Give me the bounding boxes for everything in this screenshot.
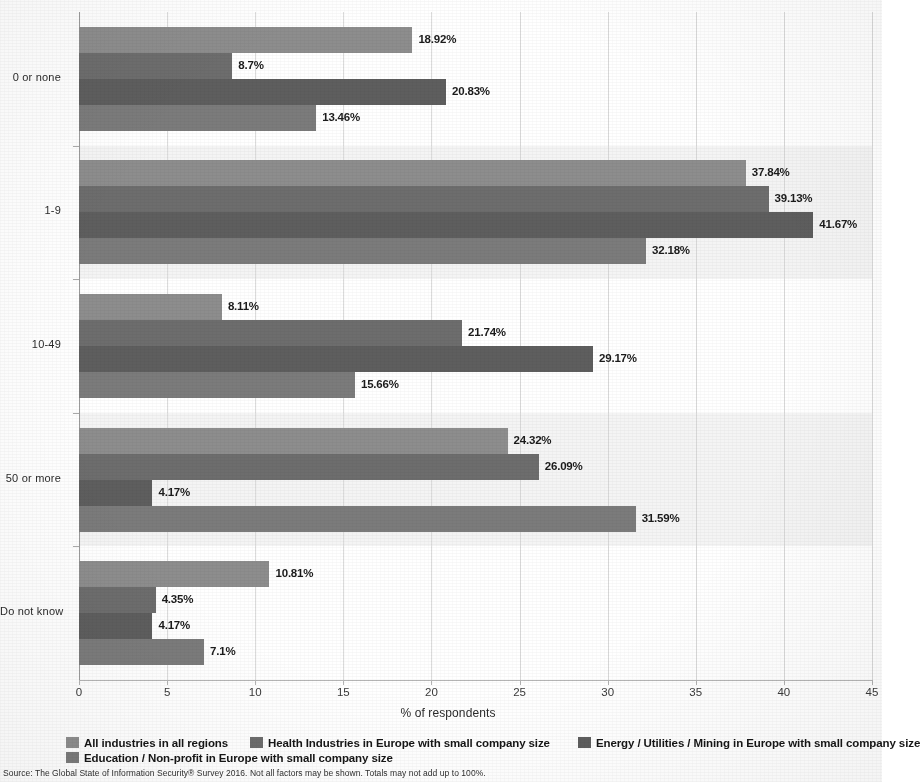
x-axis-tick xyxy=(520,680,521,685)
gridline xyxy=(608,12,609,680)
bar[interactable] xyxy=(79,212,813,238)
bar[interactable] xyxy=(79,480,152,506)
bar[interactable] xyxy=(79,27,412,53)
y-axis-category-label: 1-9 xyxy=(0,204,70,216)
gridline xyxy=(872,12,873,680)
bar[interactable] xyxy=(79,561,269,587)
bar-value-label: 24.32% xyxy=(514,434,552,446)
bar-value-label: 32.18% xyxy=(652,244,690,256)
x-axis-tick xyxy=(343,680,344,685)
legend-label: Energy / Utilities / Mining in Europe wi… xyxy=(596,736,920,751)
legend-swatch xyxy=(250,737,263,748)
y-axis-tick xyxy=(73,413,79,414)
y-axis-category-label: 0 or none xyxy=(0,71,70,83)
bar-value-label: 8.7% xyxy=(238,59,263,71)
x-axis-tick-label: 40 xyxy=(777,686,790,698)
bar-value-label: 4.17% xyxy=(158,486,190,498)
legend-swatch xyxy=(578,737,591,748)
x-axis-tick-label: 35 xyxy=(689,686,702,698)
bar-value-label: 7.1% xyxy=(210,645,235,657)
gridline xyxy=(696,12,697,680)
bar[interactable] xyxy=(79,613,152,639)
bar-value-label: 31.59% xyxy=(642,512,680,524)
source-note: Source: The Global State of Information … xyxy=(3,768,486,778)
bar[interactable] xyxy=(79,79,446,105)
legend-swatch xyxy=(66,737,79,748)
bar[interactable] xyxy=(79,160,746,186)
bar[interactable] xyxy=(79,186,769,212)
x-axis-tick-label: 15 xyxy=(337,686,350,698)
bar[interactable] xyxy=(79,294,222,320)
gridline xyxy=(784,12,785,680)
x-axis-tick xyxy=(784,680,785,685)
y-axis-tick xyxy=(73,546,79,547)
x-axis-tick xyxy=(167,680,168,685)
x-axis-tick xyxy=(696,680,697,685)
bar-value-label: 4.17% xyxy=(158,619,190,631)
bar-value-label: 39.13% xyxy=(775,192,813,204)
legend-item[interactable]: Education / Non-profit in Europe with sm… xyxy=(66,751,393,766)
legend-item[interactable]: Energy / Utilities / Mining in Europe wi… xyxy=(578,736,920,751)
x-axis-tick-label: 20 xyxy=(425,686,438,698)
bar[interactable] xyxy=(79,53,232,79)
x-axis-tick-label: 10 xyxy=(249,686,262,698)
bar-value-label: 37.84% xyxy=(752,166,790,178)
bar[interactable] xyxy=(79,506,636,532)
legend-row: All industries in all regionsHealth Indu… xyxy=(66,736,882,751)
x-axis-tick xyxy=(255,680,256,685)
bar-value-label: 4.35% xyxy=(162,593,194,605)
y-axis-category-labels: 0 or none1-910-4950 or moreDo not know xyxy=(0,12,70,680)
x-axis-tick xyxy=(431,680,432,685)
x-axis-tick xyxy=(872,680,873,685)
bar-value-label: 41.67% xyxy=(819,218,857,230)
x-axis-tick-label: 5 xyxy=(164,686,170,698)
y-axis-category-label: Do not know xyxy=(0,605,70,617)
bar-value-label: 8.11% xyxy=(228,300,259,312)
bar[interactable] xyxy=(79,105,316,131)
y-axis-category-label: 10-49 xyxy=(0,338,70,350)
x-axis-title-text: % of respondents xyxy=(401,706,496,720)
bar-value-label: 29.17% xyxy=(599,352,637,364)
y-axis-tick xyxy=(73,279,79,280)
x-axis-tick xyxy=(79,680,80,685)
legend-swatch xyxy=(66,752,79,763)
bar[interactable] xyxy=(79,320,462,346)
bar[interactable] xyxy=(79,238,646,264)
x-axis-tick-label: 30 xyxy=(601,686,614,698)
y-axis-tick xyxy=(73,146,79,147)
x-axis-title: % of respondents xyxy=(0,706,882,720)
legend-label: Health Industries in Europe with small c… xyxy=(268,736,550,751)
legend-item[interactable]: Health Industries in Europe with small c… xyxy=(250,736,550,751)
bar[interactable] xyxy=(79,587,156,613)
bar-value-label: 10.81% xyxy=(275,567,313,579)
bar[interactable] xyxy=(79,454,539,480)
chart-legend: All industries in all regionsHealth Indu… xyxy=(66,736,882,766)
bar[interactable] xyxy=(79,346,593,372)
x-axis-tick-label: 45 xyxy=(866,686,879,698)
legend-label: Education / Non-profit in Europe with sm… xyxy=(84,751,393,766)
x-axis-line xyxy=(79,680,873,681)
bar-value-label: 18.92% xyxy=(418,33,456,45)
x-axis-tick-label: 25 xyxy=(513,686,526,698)
bar[interactable] xyxy=(79,428,508,454)
x-axis-tick-label: 0 xyxy=(76,686,82,698)
bar-value-label: 21.74% xyxy=(468,326,506,338)
legend-item[interactable]: All industries in all regions xyxy=(66,736,228,751)
x-axis-tick xyxy=(608,680,609,685)
bar-value-label: 13.46% xyxy=(322,111,360,123)
legend-label: All industries in all regions xyxy=(84,736,228,751)
bar[interactable] xyxy=(79,639,204,665)
bar-value-label: 20.83% xyxy=(452,85,490,97)
plot-area: 18.92%8.7%20.83%13.46%37.84%39.13%41.67%… xyxy=(79,12,872,680)
bar-value-label: 15.66% xyxy=(361,378,399,390)
bar-value-label: 26.09% xyxy=(545,460,583,472)
y-axis-category-label: 50 or more xyxy=(0,472,70,484)
bar[interactable] xyxy=(79,372,355,398)
legend-row: Education / Non-profit in Europe with sm… xyxy=(66,751,882,766)
